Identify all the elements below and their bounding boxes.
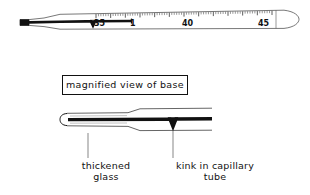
thermometer-tip — [284, 10, 299, 28]
scale-number-35: 35 — [94, 20, 105, 28]
thermometer-upper-edge — [29, 10, 284, 19]
magnified-mercury-thread — [68, 119, 212, 127]
magnified-lower-outline — [67, 126, 212, 131]
thermometer-bulb — [20, 20, 29, 26]
magnified-upper-outline — [67, 108, 212, 113]
mercury-thread — [29, 21, 132, 26]
thermometer-lower-edge — [29, 25, 284, 29]
figure-canvas: 35 1 40 45 magnified view of base thicke… — [0, 0, 310, 195]
magnified-end-cap — [60, 114, 67, 126]
mercury-column — [29, 19, 132, 27]
magnified-view-caption-box: magnified view of base — [62, 75, 188, 95]
scale-number-1: 1 — [130, 20, 136, 28]
scale-number-40: 40 — [182, 20, 193, 28]
scale-number-45: 45 — [258, 20, 269, 28]
callout-thickened-glass: thickened glass — [58, 160, 154, 182]
magnified-kink-notch — [168, 118, 178, 128]
magnified-base-diagram — [60, 108, 212, 158]
magnified-view-caption-text: magnified view of base — [66, 80, 184, 90]
callout-kink-in-capillary-tube: kink in capillary tube — [156, 160, 274, 182]
